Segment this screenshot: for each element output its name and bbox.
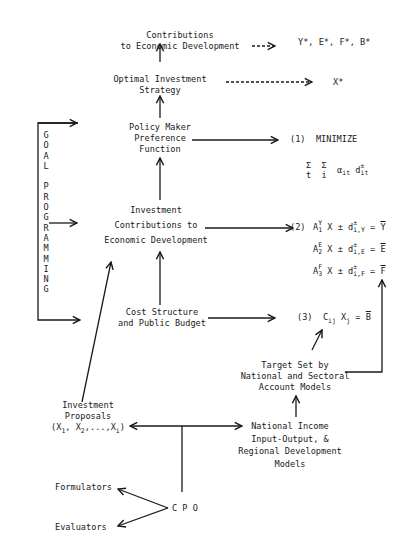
arrow-proposals-to-invest <box>82 262 111 402</box>
node-line: Investment <box>96 203 216 218</box>
node-line: Input-Output, & <box>234 433 346 446</box>
node-line: Target Set by <box>232 360 358 371</box>
node-target-set: Target Set by National and Sectoral Acco… <box>232 360 358 393</box>
node-optimal-strategy: Optimal Investment Strategy <box>110 74 210 96</box>
equation-3: (3) Cij Xj = B <box>297 312 371 323</box>
node-line: and Public Budget <box>112 318 212 329</box>
equation-2-row-e: AE2 X ± d±i,E = E <box>313 242 386 256</box>
node-evaluators: Evaluators <box>55 522 107 533</box>
arrow-cpo-to-evaluators <box>118 508 168 526</box>
node-line: Models <box>234 458 346 471</box>
node-line: Proposals <box>48 411 128 422</box>
node-policy-maker: Policy Maker Preference Function <box>120 122 200 155</box>
node-line: Policy Maker <box>120 122 200 133</box>
node-line: Contributions <box>114 30 246 41</box>
node-line: Account Models <box>232 382 358 393</box>
equation-2-number: (2) <box>290 222 306 233</box>
node-line: Function <box>120 144 200 155</box>
node-line: Regional Development <box>234 445 346 458</box>
arrow-target-to-eq3 <box>312 330 322 350</box>
node-line: Contributions to <box>96 218 216 233</box>
goal-programming-label: G O A L P R O G R A M M I N G <box>41 130 51 295</box>
equation-1-header: (1) MINIMIZE <box>290 134 357 145</box>
node-cost-structure: Cost Structure and Public Budget <box>112 307 212 329</box>
node-line: Economic Development <box>96 233 216 248</box>
equation-2-row-y: AY1 X ± d±i,Y = Y <box>313 220 386 234</box>
output-xstar: X* <box>333 77 343 88</box>
node-line: Strategy <box>110 85 210 96</box>
proposals-vector: (X1, X2,...,Xi) <box>48 422 128 433</box>
arrow-cpo-to-formulators <box>118 489 168 508</box>
node-line: Investment <box>48 400 128 411</box>
node-line: National Income <box>234 420 346 433</box>
equation-1-body: Σt Σi αit d±it <box>306 160 368 180</box>
node-line: to Economic Development <box>114 41 246 52</box>
node-investment-contributions: Investment Contributions to Economic Dev… <box>96 203 216 248</box>
node-line: National and Sectoral <box>232 371 358 382</box>
arrow-target-to-eq2 <box>345 280 382 372</box>
node-line: Optimal Investment <box>110 74 210 85</box>
node-national-income: National Income Input-Output, & Regional… <box>234 420 346 470</box>
node-cpo: C P O <box>172 503 198 514</box>
node-investment-proposals: Investment Proposals (X1, X2,...,Xi) <box>48 400 128 433</box>
output-targets: Y*, E*, F*, B* <box>298 37 370 48</box>
node-line: Cost Structure <box>112 307 212 318</box>
node-contributions: Contributions to Economic Development <box>114 30 246 52</box>
equation-2-row-f: AF3 X ± d±i,F = F <box>313 264 386 278</box>
node-formulators: Formulators <box>55 482 112 493</box>
node-line: Preference <box>120 133 200 144</box>
